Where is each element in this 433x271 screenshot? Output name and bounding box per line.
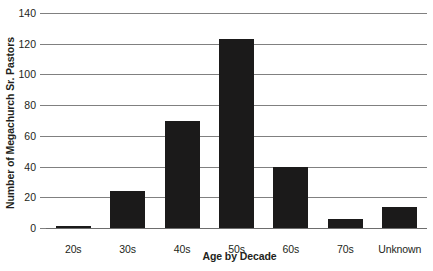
y-axis-tick-mark — [40, 74, 46, 75]
bar — [382, 207, 417, 229]
x-axis-title: Age by Decade — [46, 250, 433, 262]
bar — [165, 121, 200, 229]
y-axis-tick-mark — [40, 228, 46, 229]
y-axis-tick-label: 60 — [6, 131, 36, 142]
y-axis-tick-label: 140 — [6, 8, 36, 19]
gridline — [46, 13, 427, 14]
y-axis-tick-label: 40 — [6, 161, 36, 172]
y-axis-tick-label: 0 — [6, 223, 36, 234]
bar-chart: Number of Megachurch Sr. Pastors 0204060… — [0, 0, 433, 271]
gridline — [46, 228, 427, 229]
bar — [273, 167, 308, 228]
y-axis-tick-mark — [40, 105, 46, 106]
y-axis-tick-label: 120 — [6, 38, 36, 49]
bar — [110, 191, 145, 228]
y-axis-tick-mark — [40, 13, 46, 14]
y-axis-tick-mark — [40, 44, 46, 45]
plot-area: 02040608010012014020s30s40s50s60s70sUnkn… — [46, 13, 427, 228]
y-axis-tick-label: 100 — [6, 69, 36, 80]
bar — [56, 226, 91, 228]
bar — [328, 219, 363, 228]
y-axis-tick-mark — [40, 136, 46, 137]
y-axis-tick-mark — [40, 167, 46, 168]
y-axis-tick-mark — [40, 197, 46, 198]
y-axis-tick-label: 80 — [6, 100, 36, 111]
bar — [219, 39, 254, 228]
y-axis-tick-label: 20 — [6, 192, 36, 203]
